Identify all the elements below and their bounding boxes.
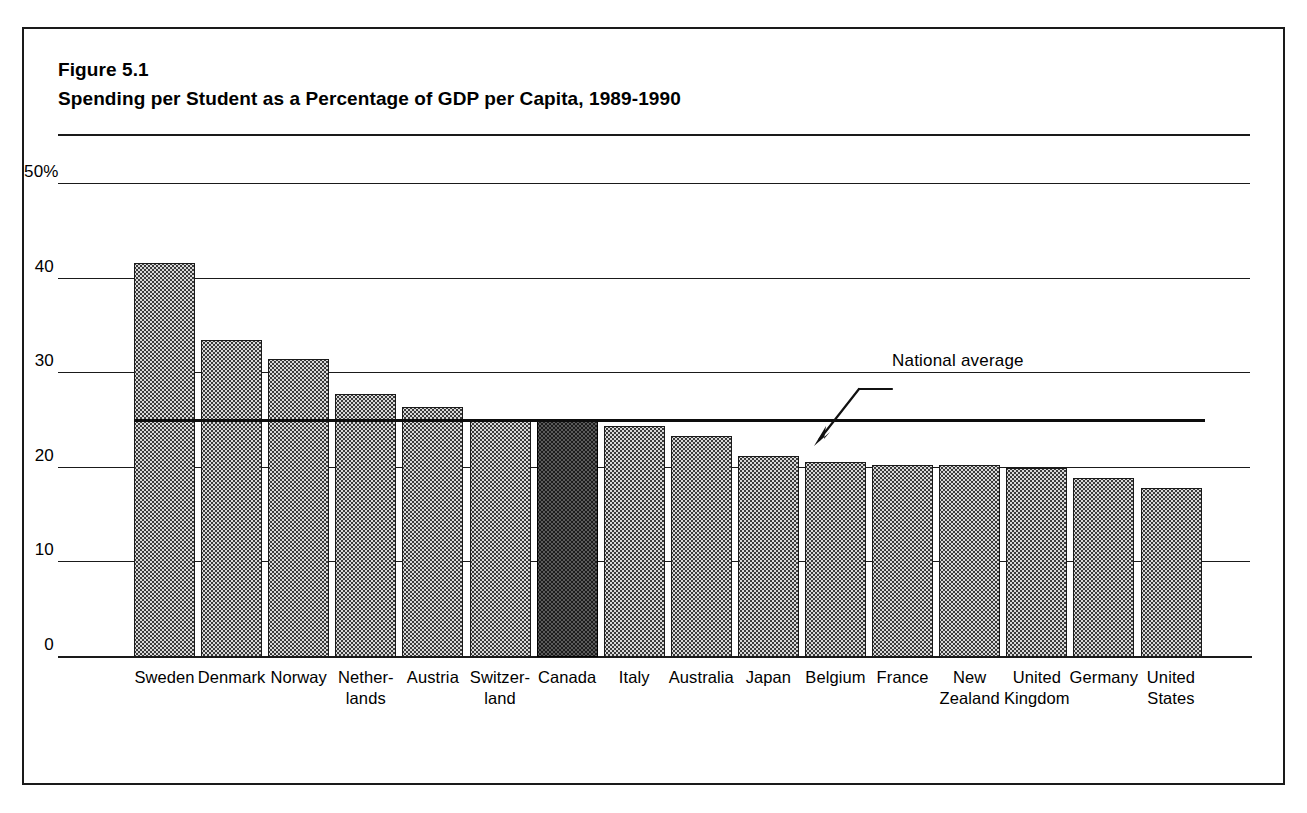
bar-canada[interactable] <box>537 421 598 658</box>
bar-france[interactable] <box>872 465 933 657</box>
bar-norway[interactable] <box>268 359 329 657</box>
bar-switzer-land[interactable] <box>470 421 531 657</box>
bar-belgium[interactable] <box>805 462 866 657</box>
bar-italy[interactable] <box>604 426 665 657</box>
bar-denmark[interactable] <box>201 340 262 657</box>
bar-nether-lands[interactable] <box>335 394 396 657</box>
bar-unitedstates[interactable] <box>1141 488 1202 657</box>
national-average-annotation-label: National average <box>892 351 1024 371</box>
bar-sweden[interactable] <box>134 263 195 657</box>
national-average-line <box>134 419 1205 422</box>
bar-unitedkingdom[interactable] <box>1006 468 1067 657</box>
bar-japan[interactable] <box>738 456 799 657</box>
bar-germany[interactable] <box>1073 478 1134 657</box>
x-axis-label-unitedstates: UnitedStates <box>1111 667 1231 709</box>
bar-austria[interactable] <box>402 407 463 657</box>
figure-frame: Figure 5.1 Spending per Student as a Per… <box>22 27 1285 785</box>
chart-bars: SwedenDenmarkNorwayNether-landsAustriaSw… <box>24 29 1287 787</box>
bar-australia[interactable] <box>671 436 732 657</box>
bar-newzealand[interactable] <box>939 465 1000 657</box>
